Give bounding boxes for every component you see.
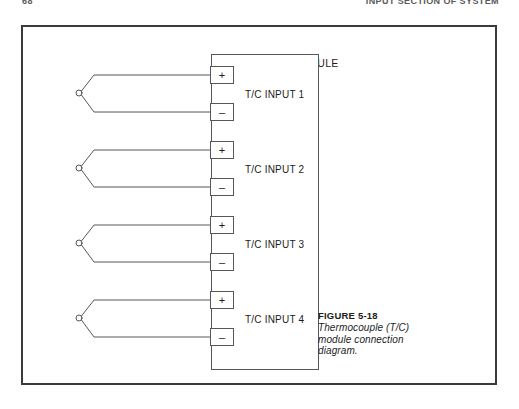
terminal-negative-3[interactable]: – [210,253,234,271]
figure-caption-line-3: diagram. [318,345,468,357]
chapter-running-head: INPUT SECTION OF SYSTEM [366,0,499,6]
figure-caption-title: FIGURE 5-18 [318,310,468,322]
thermocouple-lead-positive [82,225,211,241]
channel-label-1: T/C INPUT 1 [245,89,335,100]
figure-caption-line-2: module connection [318,334,468,346]
thermocouple-lead-negative [82,320,211,337]
page-number: 68 [22,0,33,6]
terminal-negative-4[interactable]: – [210,328,234,346]
terminal-negative-1[interactable]: – [210,103,234,121]
thermocouple-lead-negative [82,245,211,262]
figure-caption: FIGURE 5-18 Thermocouple (T/C) module co… [318,310,468,357]
terminal-positive-3[interactable]: + [210,216,234,234]
channel-label-3: T/C INPUT 3 [245,239,335,250]
thermocouple-lead-positive [82,150,211,166]
thermocouple-lead-negative [82,95,211,112]
terminal-negative-2[interactable]: – [210,178,234,196]
thermocouple-lead-positive [82,75,211,91]
figure-caption-line-1: Thermocouple (T/C) [318,322,468,334]
thermocouple-lead-positive [82,300,211,316]
terminal-positive-2[interactable]: + [210,141,234,159]
channel-label-2: T/C INPUT 2 [245,164,335,175]
thermocouple-lead-negative [82,170,211,187]
terminal-positive-4[interactable]: + [210,291,234,309]
terminal-positive-1[interactable]: + [210,66,234,84]
